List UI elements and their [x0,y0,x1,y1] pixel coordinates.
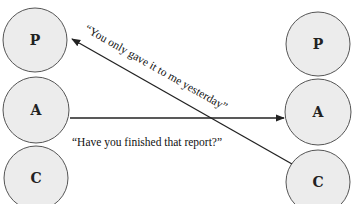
transaction-diagram: P A C P A C “Have you finished that repo… [0,0,353,204]
right-person: P A C [285,12,351,204]
left-child-state: C [4,146,68,204]
right-adult-state: A [285,79,351,145]
right-adult-label: A [312,104,325,120]
response-text: “You only gave it to me yesterday” [83,22,230,113]
stimulus-text: “Have you finished that report?” [72,136,222,149]
right-child-label: C [312,174,323,190]
left-child-label: C [30,170,41,186]
right-child-state: C [286,150,350,204]
right-parent-label: P [313,36,324,52]
right-parent-state: P [286,12,350,76]
left-adult-state: A [3,77,69,143]
left-parent-state: P [3,8,67,72]
left-person: P A C [3,8,69,204]
left-parent-label: P [30,32,41,48]
transaction-adult-to-adult: “Have you finished that report?” [70,118,284,149]
left-adult-label: A [30,102,43,118]
